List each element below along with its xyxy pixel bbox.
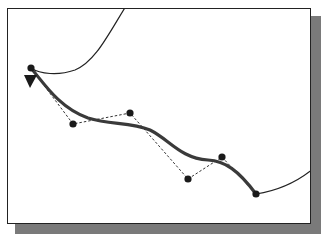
right-thin-curve bbox=[256, 168, 314, 194]
control-point-icon[interactable] bbox=[126, 109, 133, 116]
upper-thin-curve bbox=[31, 6, 126, 74]
main-spline-curve bbox=[31, 68, 256, 194]
control-point-icon[interactable] bbox=[252, 190, 259, 197]
control-point-icon[interactable] bbox=[69, 120, 76, 127]
triangle-down-icon bbox=[24, 75, 37, 88]
control-point-icon[interactable] bbox=[184, 175, 191, 182]
control-point-icon[interactable] bbox=[27, 64, 34, 71]
control-point-icon[interactable] bbox=[218, 153, 225, 160]
spline-diagram bbox=[0, 0, 322, 238]
control-polygon bbox=[31, 68, 256, 194]
